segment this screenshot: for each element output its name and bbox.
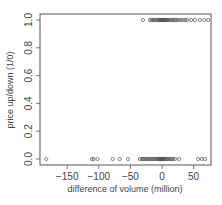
data-point [111, 157, 114, 160]
data-point [193, 18, 196, 21]
y-tick-label: 0.0 [23, 152, 34, 166]
x-axis: −150−100−50050 [56, 165, 200, 182]
x-axis-title: difference of volume (million) [68, 184, 183, 194]
data-point [178, 157, 181, 160]
data-point [198, 18, 201, 21]
data-point [96, 157, 99, 160]
y-axis: 0.00.20.40.60.81.0 [23, 13, 40, 166]
data-point [126, 157, 129, 160]
data-point [196, 157, 199, 160]
x-tick-label: −50 [122, 171, 139, 182]
x-tick-label: 0 [159, 171, 165, 182]
y-tick-label: 0.6 [23, 68, 34, 82]
x-tick-label: −150 [56, 171, 79, 182]
y-tick-label: 1.0 [23, 13, 34, 27]
data-point [203, 18, 206, 21]
data-point [190, 18, 193, 21]
x-tick-label: −100 [88, 171, 111, 182]
scatter-plot: −150−100−50050 0.00.20.40.60.81.0 differ… [0, 0, 222, 205]
x-tick-label: 50 [188, 171, 200, 182]
data-point [207, 18, 210, 21]
data-point [118, 157, 121, 160]
y-tick-label: 0.4 [23, 96, 34, 110]
y-axis-title: price up/down (1/0) [5, 51, 15, 128]
data-point [203, 157, 206, 160]
data-point [141, 18, 144, 21]
data-points [45, 18, 210, 160]
plot-box [40, 14, 211, 165]
data-point [200, 157, 203, 160]
y-tick-label: 0.8 [23, 40, 34, 54]
data-point [45, 157, 48, 160]
y-tick-label: 0.2 [23, 124, 34, 138]
